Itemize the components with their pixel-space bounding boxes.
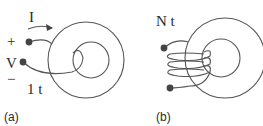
minus-label: − xyxy=(7,71,15,87)
toroid-outer-edge-b xyxy=(185,18,263,98)
toroid-diagram: I + V − 1 t (a) N t (b) xyxy=(0,0,263,126)
current-label: I xyxy=(29,9,34,25)
toroid-outer-edge-a xyxy=(48,22,124,98)
coil-lead-top xyxy=(164,41,188,48)
wire-top-a xyxy=(29,40,52,44)
terminal-dot-bottom-b xyxy=(167,85,174,92)
arrowhead-icon xyxy=(46,24,53,31)
caption-a: (a) xyxy=(4,110,19,124)
panel-b: N t (b) xyxy=(156,13,263,124)
terminal-dot-plus xyxy=(26,39,33,46)
voltage-label: V xyxy=(6,55,17,71)
toroid-inner-edge-a xyxy=(73,42,109,78)
panel-a: I + V − 1 t (a) xyxy=(4,9,124,124)
terminal-dot-minus xyxy=(20,59,27,66)
turns-label-a: 1 t xyxy=(27,81,43,97)
coil-turn-1 xyxy=(167,51,210,61)
plus-label: + xyxy=(7,33,15,49)
caption-b: (b) xyxy=(156,110,171,124)
turns-label-b: N t xyxy=(156,13,176,29)
terminal-dot-top-b xyxy=(161,45,168,52)
